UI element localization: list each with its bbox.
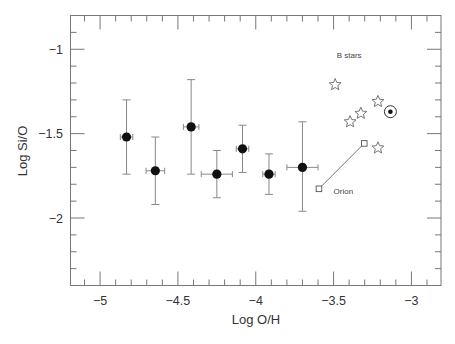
data-point-with-errorbars: [201, 151, 232, 198]
data-point-with-errorbars: [287, 122, 318, 211]
y-axis-label: Log Si/O: [15, 126, 30, 177]
x-tick-label: −4: [249, 294, 263, 308]
filled-circle-marker: [212, 170, 221, 179]
y-tick-label: −2: [49, 212, 63, 226]
b-star-marker: [355, 107, 367, 118]
filled-circle-marker: [264, 170, 273, 179]
annotation-label: Orion: [334, 187, 354, 196]
b-star-marker: [372, 95, 384, 106]
data-point-with-errorbars: [183, 80, 199, 175]
orion-square-marker: [316, 186, 322, 192]
sun-dot: [388, 109, 393, 114]
data-point-with-errorbars: [120, 100, 132, 174]
x-tick-labels: −5−4.5−4−3.5−3: [93, 294, 419, 308]
chart: −5−4.5−4−3.5−3 −1−1.5−2 Log O/H Log Si/O…: [0, 0, 455, 344]
filled-circle-marker: [187, 122, 196, 131]
b-star-marker: [344, 116, 356, 127]
y-tick-label: −1: [49, 43, 63, 57]
filled-circle-marker: [122, 132, 131, 141]
filled-circle-marker: [238, 144, 247, 153]
x-tick-label: −3: [404, 294, 418, 308]
x-tick-label: −5: [93, 294, 107, 308]
annotation-label: B stars: [337, 51, 362, 60]
data-point-with-errorbars: [146, 137, 165, 205]
b-star-marker: [329, 78, 341, 89]
filled-circle-marker: [151, 166, 160, 175]
x-tick-label: −4.5: [166, 294, 191, 308]
data-point-with-errorbars: [236, 125, 248, 172]
orion-connector-line: [319, 143, 364, 188]
plot-data: [120, 78, 396, 211]
y-tick-label: −1.5: [38, 127, 63, 141]
b-star-marker: [372, 142, 384, 153]
sun-symbol: [384, 106, 396, 118]
x-axis-label: Log O/H: [232, 312, 280, 327]
x-tick-label: −3.5: [321, 294, 346, 308]
data-point-with-errorbars: [263, 154, 275, 195]
orion-square-marker: [361, 141, 367, 147]
y-tick-labels: −1−1.5−2: [38, 43, 63, 226]
filled-circle-marker: [298, 163, 307, 172]
